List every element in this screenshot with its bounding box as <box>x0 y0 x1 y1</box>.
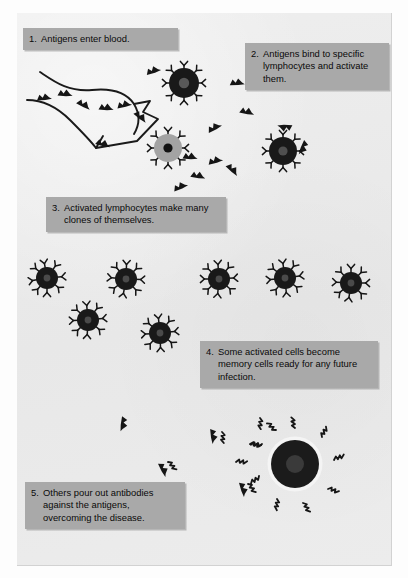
caption-step-4: 4. Some activated cells become memory ce… <box>200 341 378 388</box>
immune-response-figure: 1. Antigens enter blood. 2. Antigens bin… <box>0 0 408 578</box>
caption-text: Others pour out antibodies against the a… <box>43 487 178 524</box>
caption-text: Antigens enter blood. <box>41 33 171 45</box>
caption-step-3: 3. Activated lymphocytes make many clone… <box>46 197 226 232</box>
caption-number: 3. <box>52 202 64 214</box>
caption-text: Activated lymphocytes make many clones o… <box>64 202 219 227</box>
caption-text: Some activated cells become memory cells… <box>218 346 371 383</box>
caption-step-5: 5. Others pour out antibodies against th… <box>25 482 185 529</box>
caption-number: 5. <box>31 487 43 499</box>
caption-number: 4. <box>206 346 218 358</box>
caption-number: 2. <box>251 48 263 60</box>
caption-step-1: 1. Antigens enter blood. <box>23 28 178 50</box>
caption-step-2: 2. Antigens bind to specific lymphocytes… <box>245 43 389 90</box>
caption-text: Antigens bind to specific lymphocytes an… <box>263 48 382 85</box>
caption-number: 1. <box>29 33 41 45</box>
